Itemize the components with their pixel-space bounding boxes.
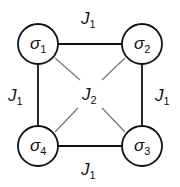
label-j2-center: J2 [81,85,97,106]
label-j1-left: J1 [7,86,23,107]
node-s4: σ4 [18,126,58,166]
node-s3: σ3 [122,126,162,166]
edge-diag-s2-s4-a [102,58,125,80]
label-j1-top: J1 [80,9,96,30]
edge-diag-s2-s4-b [55,108,78,132]
node-s1: σ1 [18,24,58,64]
label-j1-bottom: J1 [80,160,96,181]
edge-diag-s1-s3-b [102,108,125,132]
spin-coupling-diagram: σ1 σ2 σ3 σ4 J1 J1 J1 J1 J2 [0,0,180,187]
label-j1-right: J1 [154,86,170,107]
node-s2: σ2 [122,24,162,64]
edge-diag-s1-s3-a [55,58,80,80]
